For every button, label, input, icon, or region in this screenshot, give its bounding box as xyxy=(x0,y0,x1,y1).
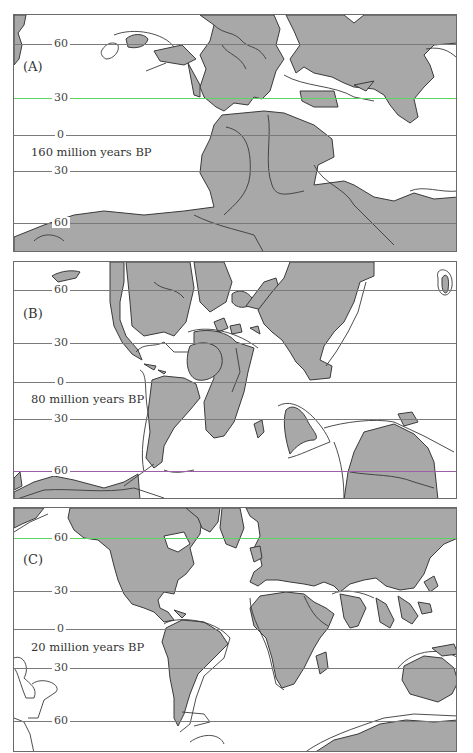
latitude-line-equator xyxy=(14,135,456,136)
latitude-label: 30 xyxy=(52,92,70,103)
panel-caption-b: 80 million years BP xyxy=(31,393,144,406)
latitude-label: 30 xyxy=(52,585,70,596)
latitude-label: 30 xyxy=(52,165,70,176)
latitude-line-60n xyxy=(14,538,456,539)
latitude-line-30n xyxy=(14,343,456,344)
latitude-line-30s xyxy=(14,419,456,420)
latitude-line-30s xyxy=(14,668,456,669)
map-panel-a: 60 30 0 30 60 (A) 160 million years BP xyxy=(13,14,457,252)
latitude-label: 30 xyxy=(52,662,70,673)
paleomap-80my xyxy=(14,262,457,499)
paleomap-160my xyxy=(14,15,457,252)
latitude-label: 30 xyxy=(52,413,70,424)
panel-caption-a: 160 million years BP xyxy=(31,146,152,159)
latitude-line-equator xyxy=(14,382,456,383)
panel-caption-c: 20 million years BP xyxy=(31,641,144,654)
latitude-line-60s xyxy=(14,223,456,224)
paleomap-20my xyxy=(14,508,457,752)
panel-label-c: (C) xyxy=(23,553,43,567)
panel-label-a: (A) xyxy=(23,60,43,74)
latitude-label: 60 xyxy=(52,532,70,543)
latitude-line-equator xyxy=(14,629,456,630)
map-panel-c: 60 30 0 30 60 (C) 20 million years BP xyxy=(13,507,457,752)
latitude-label: 0 xyxy=(55,129,66,140)
panel-label-b: (B) xyxy=(23,307,43,321)
latitude-label: 60 xyxy=(52,465,70,476)
latitude-label: 0 xyxy=(55,623,66,634)
latitude-label: 60 xyxy=(52,715,70,726)
latitude-label: 30 xyxy=(52,337,70,348)
latitude-line-60n xyxy=(14,290,456,291)
latitude-line-60s xyxy=(14,471,456,472)
latitude-line-30s xyxy=(14,171,456,172)
latitude-line-60n xyxy=(14,44,456,45)
map-panel-b: 60 30 0 30 60 (B) 80 million years BP xyxy=(13,261,457,499)
latitude-label: 60 xyxy=(52,217,70,228)
latitude-label: 60 xyxy=(52,38,70,49)
latitude-line-30n xyxy=(14,591,456,592)
latitude-line-60s xyxy=(14,721,456,722)
latitude-label: 0 xyxy=(55,376,66,387)
latitude-line-30n xyxy=(14,98,456,99)
latitude-label: 60 xyxy=(52,284,70,295)
